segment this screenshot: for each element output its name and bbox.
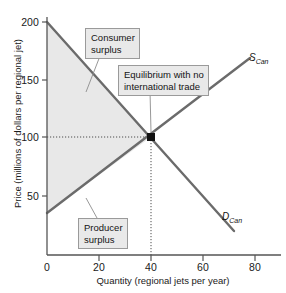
consumer-surplus-callout: Consumer surplus (85, 28, 140, 59)
x-tick-label-80: 80 (245, 261, 265, 273)
chart-canvas (0, 0, 286, 293)
producer-surplus-callout-line2: surplus (84, 234, 123, 246)
supply-curve-label-main: S (249, 52, 256, 63)
y-axis-title: Price (millions of dollars per regional … (12, 24, 23, 224)
x-axis-title: Quantity (regional jets per year) (40, 275, 286, 286)
producer-surplus-callout: Producer surplus (78, 218, 128, 249)
x-tick-label-0: 0 (37, 261, 57, 273)
consumer-surplus-callout-line1: Consumer (91, 32, 135, 44)
demand-curve-label: DCan (222, 211, 242, 224)
supply-demand-chart: 200 150 100 50 0 20 40 60 80 Price (mill… (0, 0, 286, 293)
demand-curve-label-sub: Can (229, 217, 242, 224)
consumer-surplus-callout-line2: surplus (91, 44, 135, 56)
equilibrium-callout-line1: Equilibrium with no (124, 69, 204, 81)
equilibrium-callout: Equilibrium with no international trade (118, 65, 209, 96)
x-tick-label-40: 40 (141, 261, 161, 273)
supply-curve-label-sub: Can (256, 58, 269, 65)
producer-surplus-callout-line1: Producer (84, 222, 123, 234)
equilibrium-leader (150, 91, 151, 132)
x-tick-label-20: 20 (89, 261, 109, 273)
x-tick-label-60: 60 (193, 261, 213, 273)
supply-curve-label: SCan (249, 52, 269, 65)
producer-surplus-leader (86, 198, 97, 218)
equilibrium-callout-line2: international trade (124, 81, 204, 93)
equilibrium-point-marker (147, 133, 155, 141)
